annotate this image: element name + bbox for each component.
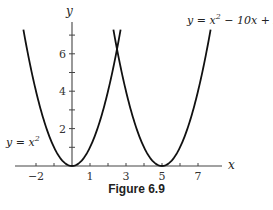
y-tick-label: 2 — [59, 123, 66, 136]
y-tick-label: 4 — [59, 85, 66, 98]
chart-figure: −21357246 y x y = x2 y = x2 − 10x + 25 — [0, 0, 273, 210]
y-axis-label: y — [65, 4, 73, 18]
x-axis-label: x — [228, 158, 235, 172]
curve2-label: y = x2 − 10x + 25 — [186, 12, 273, 27]
tick-labels: −21357246 — [28, 48, 202, 183]
figure-caption: Figure 6.9 — [0, 182, 273, 196]
curves — [23, 30, 210, 166]
parabola-shifted — [113, 30, 210, 166]
y-tick-label: 6 — [59, 48, 66, 61]
curve1-label: y = x2 — [5, 134, 40, 149]
